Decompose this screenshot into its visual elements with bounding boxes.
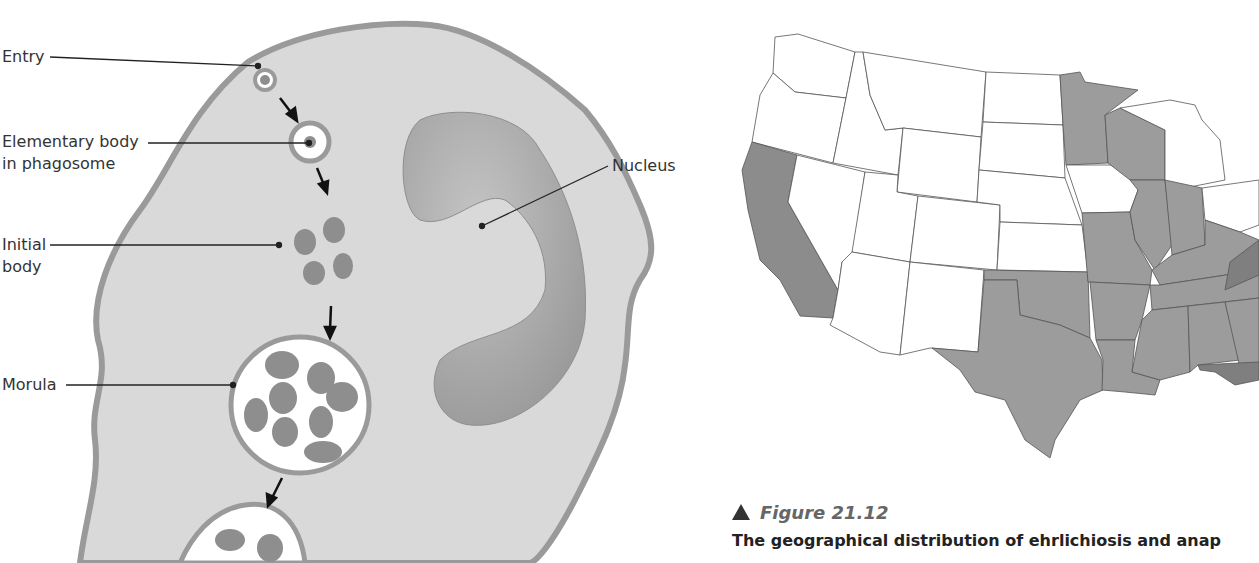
initial-body (303, 261, 325, 285)
state-south-dakota (979, 122, 1065, 178)
us-distribution-map (720, 0, 1259, 470)
initial-body (294, 229, 316, 255)
label-elementary-body: Elementary body (2, 132, 139, 152)
triangle-icon (732, 504, 750, 520)
label-entry: Entry (2, 47, 45, 67)
label-initial: Initial (2, 235, 46, 255)
state-wyoming (897, 128, 981, 202)
cell-diagram (0, 0, 720, 563)
initial-body (323, 217, 345, 243)
state-colorado (910, 196, 1000, 270)
label-morula: Morula (2, 375, 57, 395)
label-in-phagosome: in phagosome (2, 154, 115, 174)
label-body: body (2, 257, 42, 277)
label-nucleus: Nucleus (612, 156, 676, 176)
figure-caption: The geographical distribution of ehrlich… (732, 531, 1221, 550)
state-new-mexico (900, 262, 984, 355)
entry-body (260, 75, 270, 85)
state-indiana (1165, 180, 1205, 255)
state-north-dakota (983, 72, 1063, 125)
figure-label: Figure 21.12 (732, 502, 888, 523)
state-kansas (997, 222, 1088, 272)
state-florida (1198, 362, 1259, 385)
state-arizona (830, 252, 910, 355)
initial-body (333, 253, 353, 279)
